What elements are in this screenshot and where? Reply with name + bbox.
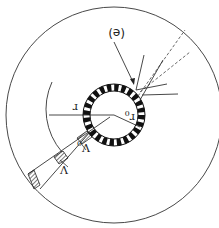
volume0-label: V0 [77, 139, 91, 154]
svg-text:r0: r0 [125, 109, 135, 124]
ray-upper [28, 117, 110, 174]
panel-arrow [114, 42, 133, 82]
cylinder-diagram: r r0 V0 V (e) [0, 0, 219, 228]
volume-element-outer [28, 170, 40, 189]
volume-label: V [59, 163, 69, 176]
radius-label: r [72, 101, 78, 114]
panel-label: (e) [108, 26, 125, 40]
inner-radius-label: r0 [125, 109, 135, 124]
ray-line-e [136, 84, 167, 90]
ray-line-f [142, 94, 178, 95]
svg-text:V0: V0 [77, 139, 91, 154]
radius-arc [46, 82, 62, 152]
arrow-head [130, 78, 135, 85]
ray-line-c [136, 55, 144, 90]
volume-element-v [54, 151, 68, 164]
ray-line-d [140, 60, 163, 100]
